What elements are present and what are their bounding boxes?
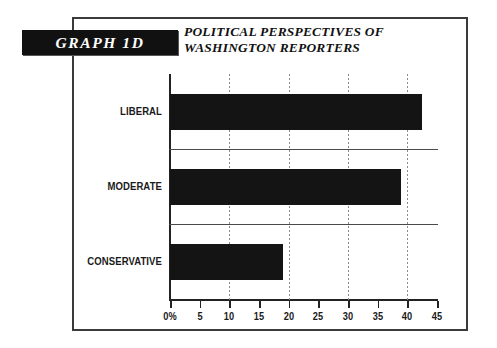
- category-label-liberal: LIBERAL: [54, 105, 162, 117]
- category-separator-0: [169, 149, 438, 150]
- x-tick-10: [229, 301, 231, 308]
- plot-area: LIBERALMODERATECONSERVATIVE 0%5101520253…: [0, 0, 497, 348]
- x-tick-45: [437, 301, 439, 308]
- category-label-moderate: MODERATE: [54, 180, 162, 192]
- x-tick-15: [259, 301, 261, 308]
- category-separator-1: [169, 224, 438, 225]
- x-tick-30: [348, 301, 350, 308]
- bar-moderate: [170, 169, 401, 205]
- x-tick-40: [407, 301, 409, 308]
- bar-liberal: [170, 94, 422, 130]
- x-tick-20: [289, 301, 291, 308]
- bar-conservative: [170, 244, 283, 280]
- x-tick-5: [200, 301, 202, 308]
- x-axis-line: [169, 299, 438, 301]
- x-tick-25: [318, 301, 320, 308]
- x-tick-35: [378, 301, 380, 308]
- x-tick-label-45: 45: [419, 310, 454, 322]
- category-label-conservative: CONSERVATIVE: [54, 255, 162, 267]
- x-tick-0: [170, 301, 172, 308]
